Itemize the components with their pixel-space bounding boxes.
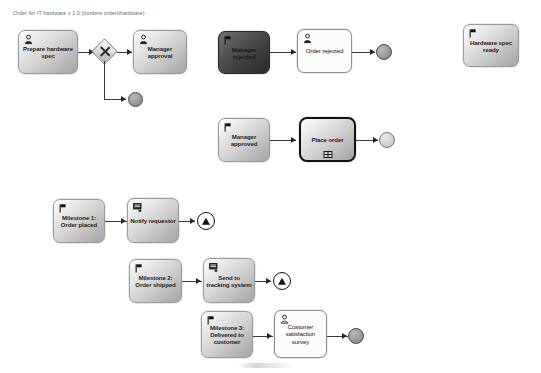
user-task-icon — [302, 33, 313, 44]
task-manager-rejected[interactable]: Manager rejected — [218, 31, 270, 74]
arrowhead — [267, 333, 272, 339]
task-label: Send to tracking system — [206, 273, 252, 288]
escalation-end-event-tracking[interactable] — [273, 272, 291, 290]
task-label: Customer satisfaction survey — [277, 323, 324, 345]
script-task-icon — [208, 262, 219, 273]
escalation-end-event-notify[interactable] — [197, 212, 215, 230]
arrowhead — [190, 218, 195, 224]
end-event-gateway-branch[interactable] — [128, 92, 143, 107]
page-edge-artifact — [238, 363, 296, 368]
task-label: Milestone 1: Order placed — [56, 214, 102, 229]
task-milestone-2[interactable]: Milestone 2: Order shipped — [129, 259, 182, 303]
end-event-order-rejected[interactable] — [376, 44, 392, 60]
task-prepare-hardware-spec[interactable]: Prepare hardware spec — [18, 30, 78, 74]
user-task-icon — [23, 34, 34, 45]
connector-gateway-down — [104, 61, 105, 99]
end-event-survey[interactable] — [348, 328, 364, 344]
arrowhead — [127, 49, 132, 55]
task-label: Manager approval — [136, 45, 184, 60]
arrowhead — [266, 278, 271, 284]
task-customer-satisfaction-survey[interactable]: Customer satisfaction survey — [274, 310, 327, 358]
arrowhead — [121, 96, 126, 102]
user-task-icon — [138, 34, 149, 45]
diagram-title: Order for IT hardware v 1.0 (itorders or… — [13, 9, 145, 17]
task-order-rejected[interactable]: Order rejected — [297, 29, 352, 73]
task-manager-approval[interactable]: Manager approval — [133, 30, 187, 74]
start-event-flag-icon — [134, 263, 145, 274]
task-label: Milestone 3: Delivered to customer — [204, 323, 250, 345]
arrowhead — [370, 49, 375, 55]
task-manager-approved[interactable]: Manager approved — [218, 118, 270, 162]
arrowhead — [196, 278, 201, 284]
escalation-triangle-icon — [278, 278, 286, 285]
task-label: Notify requestor — [130, 217, 176, 224]
subprocess-marker-icon — [323, 151, 332, 158]
start-event-flag-icon — [58, 203, 69, 214]
task-label: Milestone 2: Order shipped — [132, 274, 179, 289]
task-milestone-3[interactable]: Milestone 3: Delivered to customer — [201, 311, 253, 358]
escalation-triangle-icon — [202, 218, 210, 225]
start-event-flag-icon — [223, 122, 234, 133]
task-label: Order rejected — [300, 47, 349, 54]
task-hardware-spec-ready[interactable]: Hardware spec ready — [463, 24, 519, 67]
call-activity-place-order[interactable]: Place order — [299, 117, 356, 162]
task-label: Place order — [303, 136, 352, 143]
end-event-place-order[interactable] — [379, 132, 395, 148]
arrowhead — [342, 333, 347, 339]
arrowhead — [121, 218, 126, 224]
task-label: Hardware spec ready — [466, 38, 516, 53]
task-milestone-1[interactable]: Milestone 1: Order placed — [53, 199, 105, 243]
task-label: Manager approved — [221, 133, 267, 148]
script-task-icon — [132, 202, 143, 213]
arrowhead — [373, 137, 378, 143]
task-label: Prepare hardware spec — [21, 45, 75, 60]
bpmn-diagram-canvas: Order for IT hardware v 1.0 (itorders or… — [0, 0, 541, 373]
arrowhead — [291, 137, 296, 143]
task-label: Manager rejected — [221, 45, 267, 60]
arrowhead — [291, 49, 296, 55]
task-send-to-tracking-system[interactable]: Send to tracking system — [203, 258, 255, 303]
task-notify-requestor[interactable]: Notify requestor — [127, 198, 179, 243]
